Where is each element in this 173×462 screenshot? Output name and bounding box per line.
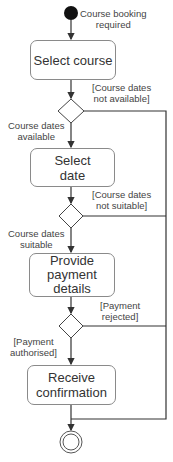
guard-not-suitable: [Course dates not suitable] xyxy=(92,189,151,211)
guard-payment-authorised: [Payment authorised] xyxy=(10,336,57,358)
decision-node-2 xyxy=(59,204,83,228)
guard-available: Course dates available xyxy=(8,120,65,142)
activity-select-course: Select course xyxy=(30,40,116,80)
start-node xyxy=(64,6,78,20)
activity-provide-payment: Provide payment details xyxy=(29,253,115,297)
activity-select-date: Select date xyxy=(30,148,115,187)
start-label: Course booking required xyxy=(80,8,147,30)
guard-payment-rejected: [Payment rejected] xyxy=(100,300,140,322)
guard-not-available: [Course dates not available] xyxy=(92,82,151,104)
guard-suitable: Course dates suitable xyxy=(8,228,65,250)
decision-node-3 xyxy=(59,314,83,338)
activity-receive-confirmation: Receive confirmation xyxy=(27,365,116,405)
